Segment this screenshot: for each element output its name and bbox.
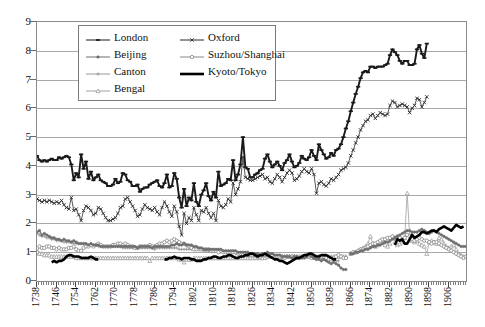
x-minor-tick [404, 282, 405, 285]
x-minor-tick [313, 282, 314, 285]
x-minor-tick [102, 282, 103, 285]
y-axis: 0123456789 [0, 0, 36, 282]
legend-label: Oxford [208, 32, 240, 43]
x-minor-tick [132, 282, 133, 285]
x-minor-tick [443, 282, 444, 285]
x-minor-tick [391, 282, 392, 285]
x-minor-tick [68, 282, 69, 285]
x-minor-tick [362, 282, 363, 285]
x-tick-label: 1794 [168, 287, 178, 307]
x-minor-tick [288, 282, 289, 285]
x-tick-label: 1818 [227, 287, 237, 307]
legend-label: Canton [114, 66, 146, 77]
x-marker-icon [179, 32, 205, 44]
x-minor-tick [401, 282, 402, 285]
x-tick-label: 1770 [109, 287, 119, 307]
x-minor-tick [168, 282, 169, 285]
chart-figure: 0123456789 17381746175417621770177817861… [0, 0, 485, 327]
x-minor-tick [237, 282, 238, 285]
x-minor-tick [387, 282, 388, 285]
x-minor-tick [190, 282, 191, 285]
chart-legend: LondonBeijingCantonBengal OxfordSuzhou/S… [78, 25, 276, 101]
x-minor-tick [399, 282, 400, 285]
x-tick-label: 1898 [423, 287, 433, 307]
x-minor-tick [247, 282, 248, 285]
x-minor-tick [342, 282, 343, 285]
legend-item-beijing[interactable]: Beijing [85, 46, 177, 63]
legend-label: Kyoto/Tokyo [208, 66, 267, 77]
legend-label: Suzhou/Shanghai [208, 49, 285, 60]
x-minor-tick [97, 282, 98, 285]
x-tick-label: 1850 [306, 287, 316, 307]
x-minor-tick [384, 282, 385, 285]
x-minor-tick [453, 282, 454, 285]
legend-item-oxford[interactable]: Oxford [179, 29, 275, 46]
legend-label: Beijing [114, 49, 146, 60]
x-minor-tick [129, 282, 130, 285]
legend-item-london[interactable]: London [85, 29, 177, 46]
legend-item-suzhou-shanghai[interactable]: Suzhou/Shanghai [179, 46, 275, 63]
x-minor-tick [146, 282, 147, 285]
x-minor-tick [46, 282, 47, 285]
x-minor-tick [301, 282, 302, 285]
x-tick-label: 1842 [286, 287, 296, 307]
x-minor-tick [308, 282, 309, 285]
x-minor-tick [244, 282, 245, 285]
x-minor-tick [440, 282, 441, 285]
x-minor-tick [151, 282, 152, 285]
x-minor-tick [87, 282, 88, 285]
x-tick-label: 1778 [129, 287, 139, 307]
x-minor-tick [315, 282, 316, 285]
x-minor-tick [418, 282, 419, 285]
x-minor-tick [254, 282, 255, 285]
x-minor-tick [320, 282, 321, 285]
circle-marker-icon [179, 49, 205, 61]
x-minor-tick [416, 282, 417, 285]
x-minor-tick [274, 282, 275, 285]
x-minor-tick [455, 282, 456, 285]
x-minor-tick [266, 282, 267, 285]
x-minor-tick [421, 282, 422, 285]
x-minor-tick [43, 282, 44, 285]
series-beijing [37, 228, 466, 271]
x-tick-label: 1874 [364, 287, 374, 307]
x-minor-tick [230, 282, 231, 285]
x-minor-tick [156, 282, 157, 285]
x-tick-label: 1786 [149, 287, 159, 307]
x-tick-label: 1866 [345, 287, 355, 307]
x-minor-tick [269, 282, 270, 285]
x-minor-tick [426, 282, 427, 285]
dot-marker-icon [85, 49, 111, 61]
x-minor-tick [259, 282, 260, 285]
x-minor-tick [203, 282, 204, 285]
x-minor-tick [163, 282, 164, 285]
x-minor-tick [149, 282, 150, 285]
legend-item-canton[interactable]: Canton [85, 63, 177, 80]
x-minor-tick [222, 282, 223, 285]
x-minor-tick [205, 282, 206, 285]
x-minor-tick [200, 282, 201, 285]
x-minor-tick [58, 282, 59, 285]
x-minor-tick [183, 282, 184, 285]
x-minor-tick [394, 282, 395, 285]
legend-item-bengal[interactable]: Bengal [85, 80, 177, 97]
x-minor-tick [465, 282, 466, 285]
x-minor-tick [220, 282, 221, 285]
x-minor-tick [296, 282, 297, 285]
x-tick-label: 1834 [266, 287, 276, 307]
legend-item-kyoto-tokyo[interactable]: Kyoto/Tokyo [179, 63, 275, 80]
x-minor-tick [127, 282, 128, 285]
x-minor-tick [414, 282, 415, 285]
x-minor-tick [293, 282, 294, 285]
x-minor-tick [210, 282, 211, 285]
x-minor-tick [338, 282, 339, 285]
x-minor-tick [53, 282, 54, 285]
x-minor-tick [61, 282, 62, 285]
x-minor-tick [110, 282, 111, 285]
x-minor-tick [325, 282, 326, 285]
x-minor-tick [242, 282, 243, 285]
x-tick-label: 1802 [188, 287, 198, 307]
x-minor-tick [328, 282, 329, 285]
x-minor-tick [431, 282, 432, 285]
x-minor-tick [445, 282, 446, 285]
